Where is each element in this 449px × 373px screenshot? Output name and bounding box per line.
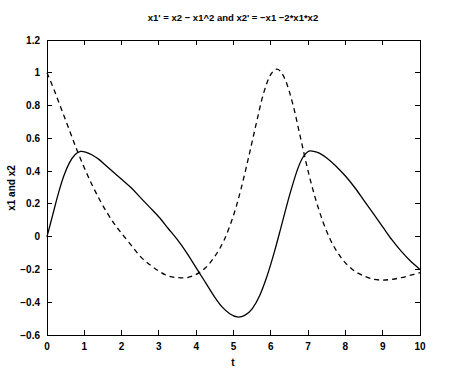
y-tick-label: 1.2 (26, 35, 40, 46)
y-tick-label: 0.6 (26, 133, 40, 144)
y-tick-label: 0 (34, 231, 40, 242)
x-tick-label: 4 (193, 341, 199, 352)
figure-container: x1' = x2 − x1^2 and x2' = −x1 −2*x1*x2 0… (0, 0, 449, 373)
x-tick-label: 6 (268, 341, 274, 352)
x-tick-label: 0 (44, 341, 50, 352)
x-tick-label: 8 (343, 341, 349, 352)
y-tick-label: 1 (34, 67, 40, 78)
y-tick-label: 0.2 (26, 198, 40, 209)
x-tick-label: 1 (82, 341, 88, 352)
x-tick-label: 2 (119, 341, 125, 352)
x-tick-label: 3 (156, 341, 162, 352)
x-tick-label: 5 (231, 341, 237, 352)
x-tick-label: 10 (414, 341, 426, 352)
y-tick-label: −0.2 (20, 264, 40, 275)
figure-background (0, 0, 449, 373)
chart-title: x1' = x2 − x1^2 and x2' = −x1 −2*x1*x2 (148, 12, 318, 23)
y-tick-label: 0.4 (26, 166, 40, 177)
y-axis-label: x1 and x2 (6, 165, 17, 211)
x-tick-label: 9 (380, 341, 386, 352)
y-tick-label: 0.8 (26, 100, 40, 111)
y-tick-label: −0.4 (20, 297, 40, 308)
chart-canvas: x1' = x2 − x1^2 and x2' = −x1 −2*x1*x2 0… (0, 0, 449, 373)
y-tick-label: −0.6 (20, 330, 40, 341)
x-tick-label: 7 (305, 341, 311, 352)
